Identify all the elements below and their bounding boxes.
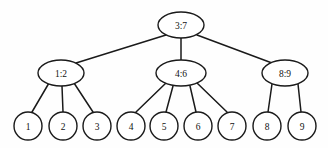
leaf-node-2[interactable]: 2 xyxy=(49,112,77,140)
edge-8-9-to-leaf-8 xyxy=(268,84,272,112)
leaf-node-1[interactable]: 1 xyxy=(14,112,42,140)
internal-node-4-6[interactable]: 4:6 xyxy=(156,60,206,86)
leaf-node-7-label: 7 xyxy=(230,122,235,132)
leaf-node-7[interactable]: 7 xyxy=(218,112,246,140)
root-node-label: 3:7 xyxy=(175,21,187,31)
edge-1-2-to-leaf-2 xyxy=(62,86,63,112)
internal-node-1-2[interactable]: 1:2 xyxy=(38,60,84,86)
tree-diagram: 3:7 1:2 4:6 8:9 1 2 3 4 5 6 7 8 xyxy=(0,0,328,148)
leaf-node-4[interactable]: 4 xyxy=(117,112,145,140)
leaf-node-5[interactable]: 5 xyxy=(150,112,178,140)
internal-node-4-6-label: 4:6 xyxy=(175,69,187,79)
leaf-node-3-label: 3 xyxy=(95,122,100,132)
leaf-node-6[interactable]: 6 xyxy=(184,112,212,140)
internal-node-8-9-label: 8:9 xyxy=(279,69,291,79)
edge-4-6-to-leaf-6 xyxy=(190,86,196,112)
leaf-node-9[interactable]: 9 xyxy=(288,112,316,140)
leaf-node-8-label: 8 xyxy=(265,122,270,132)
leaf-node-5-label: 5 xyxy=(162,122,167,132)
edge-1-2-to-leaf-1 xyxy=(32,83,49,112)
leaf-node-4-label: 4 xyxy=(129,122,134,132)
internal-node-1-2-label: 1:2 xyxy=(55,69,67,79)
leaf-node-8[interactable]: 8 xyxy=(253,112,281,140)
leaf-node-1-label: 1 xyxy=(26,122,31,132)
edge-8-9-to-leaf-9 xyxy=(298,84,301,112)
edge-1-2-to-leaf-3 xyxy=(74,83,93,112)
leaf-node-2-label: 2 xyxy=(61,122,66,132)
edge-4-6-to-leaf-4 xyxy=(136,83,166,112)
leaf-node-3[interactable]: 3 xyxy=(83,112,111,140)
edge-root-to-8-9 xyxy=(197,35,272,63)
edge-4-6-to-leaf-5 xyxy=(166,86,173,112)
internal-node-8-9[interactable]: 8:9 xyxy=(262,60,308,86)
leaf-node-6-label: 6 xyxy=(196,122,201,132)
leaf-node-9-label: 9 xyxy=(300,122,305,132)
edge-root-to-1-2 xyxy=(76,35,166,63)
root-node[interactable]: 3:7 xyxy=(158,12,204,38)
edge-4-6-to-leaf-7 xyxy=(197,83,227,112)
